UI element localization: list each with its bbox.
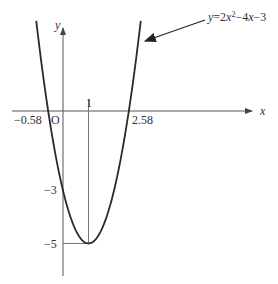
y-intercept-label: −3 — [44, 183, 57, 197]
chart-canvas: y x O −0.58 2.58 1 −3 −5 y=2x2−4x−3 — [0, 0, 278, 284]
parabola-figure: y x O −0.58 2.58 1 −3 −5 y=2x2−4x−3 — [0, 0, 278, 284]
x-axis-label: x — [259, 104, 266, 118]
root-left-label: −0.58 — [14, 113, 42, 127]
equation-label: y=2x2−4x−3 — [207, 10, 266, 24]
root-right-label: 2.58 — [132, 113, 153, 127]
vertex-x-label: 1 — [86, 96, 92, 110]
y-axis-label: y — [54, 18, 61, 32]
origin-label: O — [51, 113, 60, 127]
equation-pointer-arrow — [145, 20, 205, 41]
vertex-y-label: −5 — [44, 237, 57, 251]
